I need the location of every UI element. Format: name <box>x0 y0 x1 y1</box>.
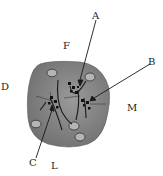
label-M: M <box>127 103 137 113</box>
vessel-top-right <box>85 73 95 81</box>
vessel-bottom-right <box>75 133 85 141</box>
vessel-left <box>31 120 41 128</box>
label-C: C <box>29 158 37 168</box>
label-D: D <box>1 82 9 92</box>
diagram-canvas <box>0 0 163 176</box>
vessel-top-left <box>47 69 57 77</box>
label-A: A <box>92 11 99 21</box>
label-L: L <box>51 161 58 171</box>
label-F: F <box>63 41 70 51</box>
label-B: B <box>148 57 155 67</box>
